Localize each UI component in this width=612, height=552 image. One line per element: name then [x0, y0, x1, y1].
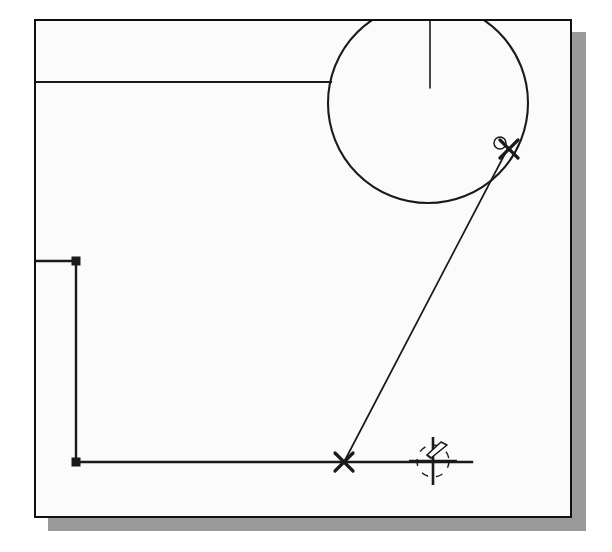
drawing-canvas-frame[interactable]: [34, 19, 572, 518]
screen-root: [0, 0, 612, 552]
